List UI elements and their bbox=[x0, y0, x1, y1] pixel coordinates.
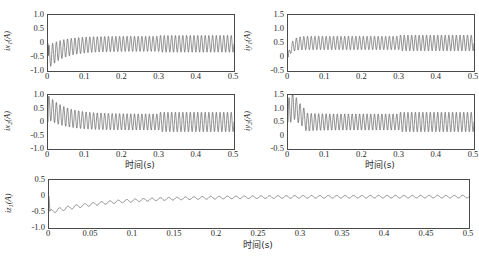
y-tick: 1.5 bbox=[273, 89, 284, 99]
y-tick: -1.0 bbox=[32, 222, 45, 232]
y-tick-labels-iy1: 1.5 1.0 0.5 0 -0.5 bbox=[252, 14, 284, 70]
x-tick: 0 bbox=[285, 71, 289, 81]
x-tick: 0.2 bbox=[116, 71, 127, 81]
y-axis-label-ix2-unit: (A) bbox=[2, 111, 12, 122]
x-tick: 0.2 bbox=[356, 71, 367, 81]
y-tick: 1.0 bbox=[273, 103, 284, 113]
x-tick: 0.3 bbox=[393, 71, 404, 81]
plot-panel-ix2: ix2(A) 1.0 0.5 0 -0.5 -1.0 0 0.1 0.2 0.3… bbox=[0, 86, 240, 170]
plot-panel-iy2: iy2(A) 1.5 1.0 0.5 0 -0.5 0 0.1 0.2 0.3 … bbox=[240, 86, 479, 170]
y-tick: 0.5 bbox=[33, 23, 44, 33]
plot-panel-iz1: iz1(A) 0.5 0 -0.5 -1.0 0 0.05 0.1 0.15 0… bbox=[0, 170, 479, 265]
y-tick: 1.0 bbox=[33, 89, 44, 99]
y-tick: 1.0 bbox=[273, 23, 284, 33]
x-tick: 0.5 bbox=[228, 71, 239, 81]
y-tick: 0 bbox=[40, 116, 44, 126]
x-tick: 0 bbox=[45, 71, 49, 81]
y-tick: -0.5 bbox=[31, 51, 44, 61]
x-tick: 0.25 bbox=[251, 228, 266, 238]
x-tick: 0.5 bbox=[463, 228, 474, 238]
plot-panel-ix1: ix1(A) 1.0 0.5 0 -0.5 -1.0 0 0.1 0.2 0.3… bbox=[0, 0, 240, 86]
y-tick-labels-ix1: 1.0 0.5 0 -0.5 -1.0 bbox=[12, 14, 44, 70]
x-tick: 0.1 bbox=[319, 71, 330, 81]
y-tick: -1.0 bbox=[31, 143, 44, 153]
waveform-iy2 bbox=[288, 95, 474, 149]
x-tick-labels-ix1: 0 0.1 0.2 0.3 0.4 0.5 bbox=[47, 71, 233, 83]
x-tick: 0.05 bbox=[83, 228, 98, 238]
plot-area-iy2 bbox=[287, 94, 475, 150]
y-tick: 0.5 bbox=[273, 116, 284, 126]
y-axis-label-iz1-unit: (A) bbox=[3, 193, 13, 204]
y-tick: 0.5 bbox=[34, 174, 45, 184]
x-tick-labels-iy1: 0 0.1 0.2 0.3 0.4 0.5 bbox=[287, 71, 473, 83]
y-axis-label-ix1-unit: (A) bbox=[2, 31, 12, 42]
y-axis-label-iy1-base: iy bbox=[242, 45, 252, 51]
plot-area-ix1 bbox=[47, 14, 235, 72]
y-tick: -0.5 bbox=[32, 206, 45, 216]
y-tick: -0.5 bbox=[31, 130, 44, 140]
x-tick: 0.5 bbox=[468, 71, 479, 81]
y-tick: -0.5 bbox=[271, 65, 284, 75]
y-tick-labels-iy2: 1.5 1.0 0.5 0 -0.5 bbox=[252, 94, 284, 148]
x-tick: 0 bbox=[46, 228, 50, 238]
y-axis-label-iy2-base: iy bbox=[242, 125, 252, 131]
plot-area-iy1 bbox=[287, 14, 475, 72]
waveform-ix1 bbox=[48, 15, 234, 71]
y-tick: -0.5 bbox=[271, 143, 284, 153]
x-tick: 0.1 bbox=[79, 71, 90, 81]
waveform-ix2 bbox=[48, 95, 234, 149]
x-tick: 0.3 bbox=[295, 228, 306, 238]
y-axis-label-ix1-base: ix bbox=[2, 45, 12, 51]
x-tick: 0.1 bbox=[127, 228, 138, 238]
y-tick: 0 bbox=[41, 190, 45, 200]
y-tick-labels-ix2: 1.0 0.5 0 -0.5 -1.0 bbox=[12, 94, 44, 148]
x-tick: 0.4 bbox=[190, 71, 201, 81]
y-tick: 0 bbox=[280, 130, 284, 140]
plot-panel-iy1: iy1(A) 1.5 1.0 0.5 0 -0.5 0 0.1 0.2 0.3 … bbox=[240, 0, 479, 86]
x-tick: 0.35 bbox=[335, 228, 350, 238]
y-tick: 0.5 bbox=[33, 103, 44, 113]
x-tick: 0.4 bbox=[430, 71, 441, 81]
plot-area-ix2 bbox=[47, 94, 235, 150]
y-tick: 0 bbox=[40, 37, 44, 47]
x-tick: 0.45 bbox=[419, 228, 434, 238]
waveform-iz1 bbox=[49, 180, 469, 228]
x-tick: 0.3 bbox=[153, 71, 164, 81]
waveform-iy1 bbox=[288, 15, 474, 71]
y-tick-labels-iz1: 0.5 0 -0.5 -1.0 bbox=[13, 179, 45, 227]
y-axis-label-iy2-unit: (A) bbox=[242, 111, 252, 122]
y-axis-label-iy1-unit: (A) bbox=[242, 31, 252, 42]
y-tick: 1.0 bbox=[33, 9, 44, 19]
plot-area-iz1 bbox=[48, 179, 470, 229]
y-tick: 0 bbox=[280, 51, 284, 61]
x-tick: 0.15 bbox=[167, 228, 182, 238]
x-axis-label-iz1: 时间(s) bbox=[48, 238, 468, 251]
y-axis-label-iz1-base: iz bbox=[3, 207, 13, 213]
x-tick: 0.4 bbox=[379, 228, 390, 238]
x-tick: 0.2 bbox=[211, 228, 222, 238]
y-tick: 1.5 bbox=[273, 9, 284, 19]
y-tick: 0.5 bbox=[273, 37, 284, 47]
y-tick: -1.0 bbox=[31, 65, 44, 75]
y-axis-label-ix2-base: ix bbox=[2, 125, 12, 131]
